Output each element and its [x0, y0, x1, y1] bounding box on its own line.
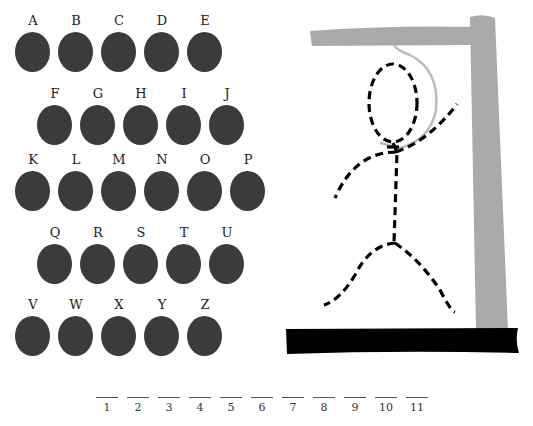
- gallows-beam: [310, 27, 472, 47]
- figure-right-leg: [395, 243, 455, 312]
- gallows-post: [470, 15, 508, 330]
- gallows-base: [286, 328, 519, 354]
- figure-right-arm: [396, 104, 457, 152]
- figure-left-arm: [335, 152, 396, 198]
- figure-left-leg: [324, 243, 395, 305]
- figure-head: [369, 64, 417, 142]
- figure-body: [393, 143, 397, 243]
- hangman-drawing: [0, 0, 533, 426]
